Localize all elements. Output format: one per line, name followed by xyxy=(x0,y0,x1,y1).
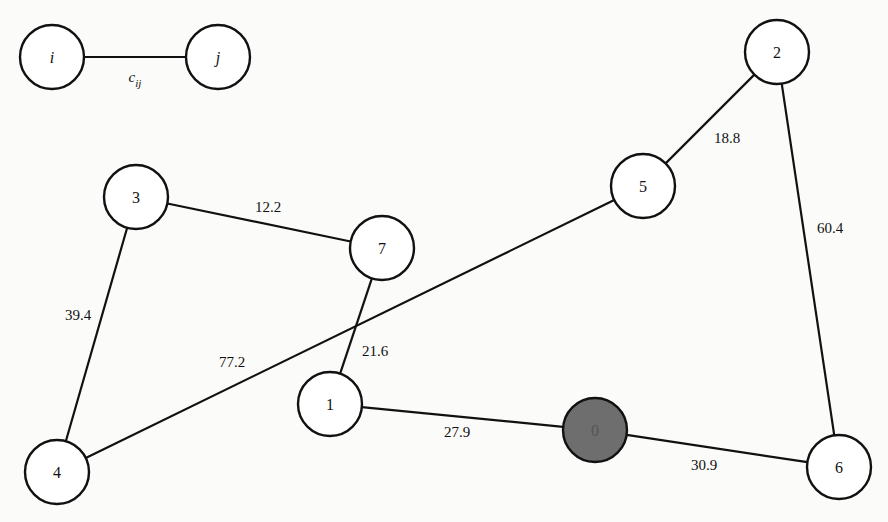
node-label: 7 xyxy=(378,240,386,257)
edge-weight-3-7: 12.2 xyxy=(255,199,281,215)
edge-weight-1-0: 27.9 xyxy=(444,424,470,440)
edge-2-6 xyxy=(782,84,835,436)
edge-weight-3-4: 39.4 xyxy=(65,307,92,323)
edge-weight-0-6: 30.9 xyxy=(691,457,717,473)
edge-3-4 xyxy=(66,228,127,441)
node-4: 4 xyxy=(25,440,89,504)
node-7: 7 xyxy=(350,216,414,280)
node-label: 3 xyxy=(132,189,140,206)
legend-edge-label: cij xyxy=(129,69,142,89)
node-6: 6 xyxy=(807,435,871,499)
node-label: 2 xyxy=(773,44,781,61)
legend-node-label: j xyxy=(214,49,221,67)
edge-weight-5-2: 18.8 xyxy=(714,130,740,146)
node-1: 1 xyxy=(298,372,362,436)
legend: ijcij xyxy=(20,25,250,89)
edge-weight-4-5: 77.2 xyxy=(219,354,245,370)
edge-5-2 xyxy=(666,75,755,164)
node-5: 5 xyxy=(611,154,675,218)
node-label: 4 xyxy=(53,464,61,481)
node-2: 2 xyxy=(745,20,809,84)
node-label: 5 xyxy=(639,178,647,195)
legend-node-from: i xyxy=(20,25,84,89)
edge-labels: 12.239.421.677.218.860.427.930.9 xyxy=(65,130,844,473)
node-3: 3 xyxy=(104,165,168,229)
node-label: 1 xyxy=(326,396,334,413)
node-0: 0 xyxy=(563,398,627,462)
edge-weight-7-1: 21.6 xyxy=(362,343,389,359)
node-label: 0 xyxy=(591,422,599,439)
graph-diagram: ijcij 12.239.421.677.218.860.427.930.9 0… xyxy=(0,0,888,522)
legend-node-label: i xyxy=(50,49,54,66)
edge-weight-2-6: 60.4 xyxy=(817,220,844,236)
legend-node-to: j xyxy=(186,25,250,89)
node-label: 6 xyxy=(835,459,843,476)
